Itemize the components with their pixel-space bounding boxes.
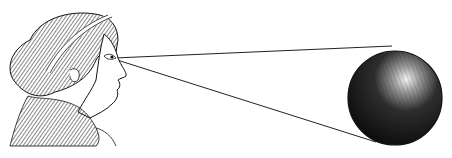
sightline-lower [114, 59, 376, 142]
sphere [348, 51, 442, 145]
head [10, 13, 126, 146]
sightline-upper [114, 46, 392, 58]
vision-illustration [0, 0, 452, 158]
